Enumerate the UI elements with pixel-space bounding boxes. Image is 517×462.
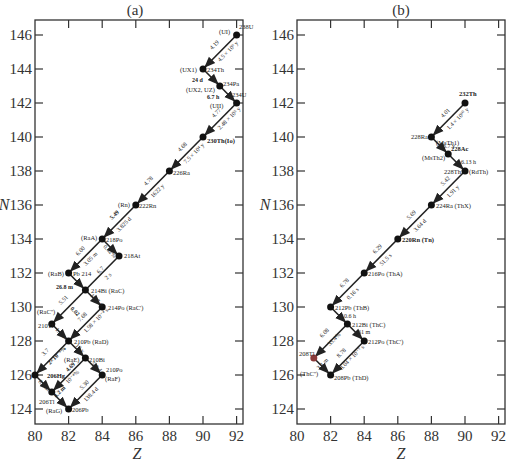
nuclide-label: 226Ra [173, 169, 190, 176]
nuclide-label: 234Th [207, 66, 225, 73]
panel-b: (b) 80 82 84 86 88 90 92 Z N [259, 2, 506, 462]
halflife-label: 0.02% [102, 243, 117, 258]
y-tick-label: 144 [272, 61, 295, 77]
nuclide-label: 218At [124, 252, 140, 259]
y-tick-label: 128 [272, 333, 295, 349]
y-tick-label: 136 [10, 197, 33, 213]
energy-label: 5.49 [108, 209, 120, 221]
nuclide-label: 206Tl [39, 398, 55, 405]
y-tick-label: 138 [10, 163, 33, 179]
panel-b-nuclide-labels: 232Th 228Ra (MsTh1) 228Ac (MsTh2) 228Th … [299, 90, 488, 382]
nuclide-label: 212Bi (ThC) [352, 321, 385, 329]
panel-a-title: (a) [127, 2, 144, 19]
x-tick-label: 90 [458, 428, 473, 444]
halflife-label: 61 m [358, 329, 371, 335]
panel-b-y-tick-labels: 146 144 142 140 138 136 134 132 130 128 … [272, 27, 295, 417]
nuclide-label: 216Po (ThA) [368, 270, 402, 278]
halflife-label: 26.8 m [56, 284, 73, 290]
nuclide-label: 238U [239, 23, 254, 30]
halflife-label: 24 d [192, 77, 204, 83]
nuclide-label: 228Th [444, 168, 462, 175]
y-tick-label: 126 [272, 367, 295, 383]
nuclide-label: 210Po [106, 366, 123, 373]
nuclide-label: 212Pb (ThB) [335, 304, 369, 312]
nuclide-alias: (RaB) [48, 270, 64, 278]
nuclide-label: 208Tl [299, 350, 315, 357]
nuclide-alias: (Rn) [118, 201, 130, 209]
y-tick-label: 126 [10, 367, 33, 383]
halflife-label: 4.2 m [52, 385, 66, 399]
y-tick-label: 124 [10, 401, 33, 417]
nuclide-label: 212Po (ThC') [368, 338, 403, 346]
nuclide-alias: (UI) [219, 28, 230, 36]
nuclide-label: 232Th [459, 90, 477, 97]
halflife-label: 6.13 h [461, 159, 476, 165]
y-tick-label: 144 [10, 61, 33, 77]
y-tick-label: 130 [10, 299, 33, 315]
energy-label: 6.78 [338, 277, 350, 289]
decay-chain-figure: (a) 80 82 84 86 88 90 92 Z N [0, 0, 517, 462]
nuclide-alias: (MsTh2) [422, 154, 445, 162]
nuclide-node [344, 321, 351, 328]
x-tick-label: 80 [290, 428, 305, 444]
nuclide-node [65, 270, 72, 277]
energy-label: 4.68 [176, 141, 188, 153]
nuclide-node [462, 100, 469, 107]
panel-a-x-tick-labels: 80 82 84 86 88 90 92 [28, 428, 245, 444]
nuclide-label: 224Ra (ThX) [436, 202, 471, 210]
halflife-label: 3.64 d [412, 218, 427, 233]
panel-a: (a) 80 82 84 86 88 90 92 Z N [0, 2, 254, 462]
y-tick-label: 138 [272, 163, 295, 179]
halflife-label: 19.7 m [89, 292, 105, 308]
energy-label: 4.19 [208, 39, 220, 51]
y-tick-label: 128 [10, 333, 33, 349]
y-tick-label: 140 [272, 129, 295, 145]
x-tick-label: 88 [162, 428, 177, 444]
energy-label: 4.01 [439, 107, 451, 119]
energy-label: 6.00 [74, 245, 86, 257]
nuclide-node [428, 202, 435, 209]
nuclide-node [32, 372, 39, 379]
y-tick-label: 136 [272, 197, 295, 213]
x-tick-label: 88 [424, 428, 439, 444]
nuclide-alias: (RaG) [46, 407, 62, 415]
nuclide-label: Pb 214 [73, 270, 92, 277]
nuclide-node [200, 134, 207, 141]
nuclide-label: 228Ra [411, 133, 428, 140]
energy-label: 5.51 [57, 294, 69, 306]
halflife-label: 2 s [103, 271, 113, 281]
nuclide-node [65, 338, 72, 345]
y-tick-label: 134 [10, 231, 33, 247]
nuclide-alias: (RaF) [105, 375, 120, 383]
x-tick-label: 86 [128, 428, 144, 444]
panel-b-frame [297, 20, 505, 424]
panel-a-transition-labels: 4.19 4.5 × 10⁹ y 24 d 6.7 h 4.77 2.48 × … [37, 39, 241, 403]
halflife-label: 6.7 y [443, 143, 455, 149]
y-tick-label: 142 [272, 95, 295, 111]
nuclide-label: 234U [232, 91, 247, 98]
energy-label: 4.78 [142, 175, 154, 187]
x-tick-label: 90 [196, 428, 211, 444]
nuclide-node [200, 66, 207, 73]
panel-a-y-tick-labels: 146 144 142 140 138 136 134 132 130 128 … [10, 27, 33, 417]
nuclide-node [327, 304, 334, 311]
halflife-label: 1.91 y [445, 184, 460, 199]
nuclide-node [82, 287, 89, 294]
halflife-label: 0.16 s [345, 286, 360, 301]
halflife-label: 6.7 h [207, 94, 220, 100]
panel-b-y-axis-title: N [259, 196, 272, 213]
halflife-label: 1.58 × 10⁻⁴ s [82, 306, 109, 333]
halflife-label: 35.4% [326, 332, 341, 347]
nuclide-label: 234Pa [223, 80, 239, 87]
energy-label: 6.08 [318, 327, 330, 339]
nuclide-alias: (UX2, UZ) [186, 86, 215, 94]
panel-b-title: (b) [392, 2, 410, 19]
halflife-label: 1622 y [149, 183, 165, 199]
y-tick-label: 146 [10, 27, 33, 43]
nuclide-alias: (ThC'') [300, 370, 318, 378]
energy-label: 3.7 [40, 347, 50, 357]
nuclide-label: 222Rn [139, 202, 157, 209]
nuclide-label: 220Rn (Tn) [402, 236, 434, 244]
panel-b-x-tick-labels: 80 82 84 86 88 90 92 [290, 428, 507, 444]
energy-label: 6.7 [95, 265, 105, 275]
